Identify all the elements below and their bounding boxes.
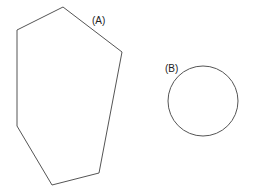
shape-a-label: (A) <box>92 16 105 26</box>
shapes-layer <box>0 0 256 196</box>
circle-shape-b <box>168 66 238 136</box>
diagram-canvas: (A) (B) <box>0 0 256 196</box>
polygon-shape-a <box>17 7 122 185</box>
shape-b-label: (B) <box>165 64 178 74</box>
